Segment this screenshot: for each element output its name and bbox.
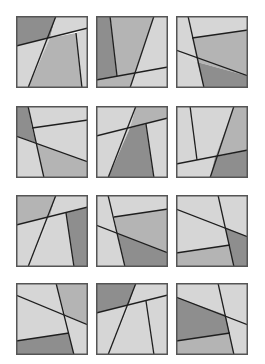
puzzle-tile-8	[96, 195, 168, 267]
puzzle-tile-4	[16, 106, 88, 178]
puzzle-tile-6	[176, 106, 248, 178]
puzzle-tile-12	[176, 283, 248, 355]
puzzle-tile-1	[16, 16, 88, 88]
puzzle-tile-10	[16, 283, 88, 355]
puzzle-tile-11	[96, 283, 168, 355]
puzzle-tile-3	[176, 16, 248, 88]
puzzle-tile-5	[96, 106, 168, 178]
puzzle-tile-9	[176, 195, 248, 267]
puzzle-tile-7	[16, 195, 88, 267]
puzzle-tile-2	[96, 16, 168, 88]
